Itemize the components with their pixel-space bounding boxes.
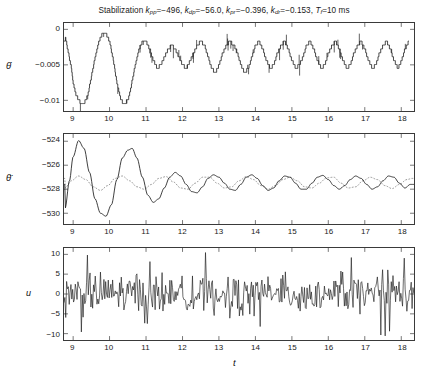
panel3-xtick: 11 xyxy=(136,343,156,352)
panel3-ytick: −5 xyxy=(6,309,60,318)
panel1-xtick: 14 xyxy=(246,114,266,123)
panel2-tickmarks xyxy=(64,134,414,224)
title-param-pp: kpp=−496, xyxy=(146,6,183,15)
panel-theta-dot xyxy=(63,22,415,112)
title-prefix: Stabilization xyxy=(98,6,143,15)
panel1-xtick: 13 xyxy=(209,114,229,123)
panel1-xtick: 17 xyxy=(356,114,376,123)
panel2-ytick: −526 xyxy=(6,160,60,169)
panel2-ytick: −528 xyxy=(6,184,60,193)
panel2-ytick: −524 xyxy=(6,135,60,144)
panel3-xtick: 14 xyxy=(246,343,266,352)
panel1-xtick: 12 xyxy=(172,114,192,123)
x-axis-label: t xyxy=(233,357,236,368)
panel1-ytick: −0.005 xyxy=(6,60,60,69)
series-theta-dot xyxy=(64,33,409,103)
panel1-spikes xyxy=(80,23,411,111)
panel3-xtick: 12 xyxy=(172,343,192,352)
figure-title: Stabilization kpp=−496, kdp=−56.0, kpr=−… xyxy=(0,6,448,15)
panel-theta-ddot xyxy=(63,133,415,225)
panel3-xtick: 9 xyxy=(62,343,82,352)
panel2-xtick: 9 xyxy=(62,227,82,236)
panel1-xtick: 18 xyxy=(392,114,412,123)
panel3-xtick: 17 xyxy=(356,343,376,352)
panel2-plot xyxy=(64,134,414,224)
panel3-ytick: 10 xyxy=(6,249,60,258)
panel2-ylabel: θ̈ xyxy=(6,172,11,183)
title-param-pr: kpr=−0.396, xyxy=(226,6,268,15)
panel2-ytick: −530 xyxy=(6,209,60,218)
panel1-tickmarks xyxy=(64,23,414,111)
title-param-f: Tf=10 ms xyxy=(315,6,349,15)
panel3-xtick: 16 xyxy=(319,343,339,352)
panel3-xtick: 13 xyxy=(209,343,229,352)
panel2-xtick: 11 xyxy=(136,227,156,236)
panel-control-input xyxy=(63,247,415,341)
panel3-ytick: −10 xyxy=(6,330,60,339)
panel3-plot xyxy=(64,248,414,340)
panel3-xtick: 18 xyxy=(392,343,412,352)
title-param-dp: kdp=−56.0, xyxy=(185,6,224,15)
panel2-xtick: 18 xyxy=(392,227,412,236)
panel1-xtick: 16 xyxy=(319,114,339,123)
panel2-xtick: 14 xyxy=(246,227,266,236)
title-param-dr: kdr=−0.153, xyxy=(271,6,313,15)
title-params: kpp=−496, kdp=−56.0, kpr=−0.396, kdr=−0.… xyxy=(146,6,350,15)
panel2-xtick: 16 xyxy=(319,227,339,236)
panel2-xtick: 13 xyxy=(209,227,229,236)
panel3-xtick: 10 xyxy=(99,343,119,352)
panel1-ytick: 0 xyxy=(6,24,60,33)
figure-root: Stabilization kpp=−496, kdp=−56.0, kpr=−… xyxy=(0,0,448,374)
panel3-ytick: 0 xyxy=(6,289,60,298)
series-u xyxy=(64,253,414,336)
panel1-xtick: 15 xyxy=(282,114,302,123)
panel2-xtick: 10 xyxy=(99,227,119,236)
panel2-xtick: 15 xyxy=(282,227,302,236)
panel1-xtick: 11 xyxy=(136,114,156,123)
panel3-ytick: 5 xyxy=(6,269,60,278)
panel1-ytick: −0.01 xyxy=(6,96,60,105)
panel3-xtick: 15 xyxy=(282,343,302,352)
panel1-xtick: 9 xyxy=(62,114,82,123)
panel1-plot xyxy=(64,23,414,111)
panel2-xtick: 17 xyxy=(356,227,376,236)
panel2-xtick: 12 xyxy=(172,227,192,236)
panel1-xtick: 10 xyxy=(99,114,119,123)
